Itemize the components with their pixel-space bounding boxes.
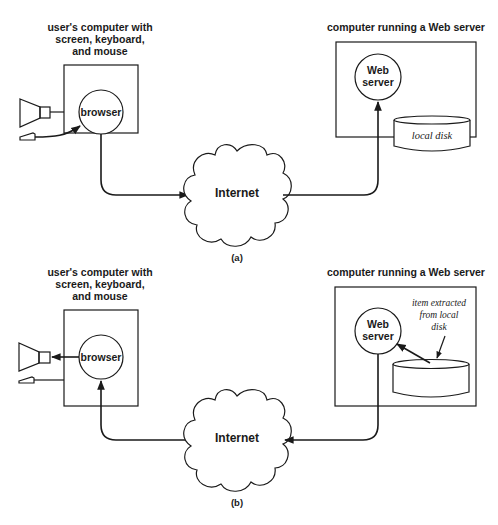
web-request-diagram: user's computer with screen, keyboard, a… bbox=[0, 0, 498, 525]
disk-annotation-line-1: item extracted bbox=[412, 298, 466, 308]
client-title-line-1: user's computer with bbox=[47, 21, 152, 33]
caption-a: (a) bbox=[231, 252, 243, 263]
internet-to-server-arrow bbox=[283, 102, 378, 195]
web-server-label-line-1: Web bbox=[367, 64, 389, 76]
web-server-label-line-2: server bbox=[362, 330, 394, 342]
client-title-line-3: and mouse bbox=[72, 290, 128, 302]
client-title-line-3: and mouse bbox=[72, 45, 128, 57]
client-title-line-1: user's computer with bbox=[47, 266, 152, 278]
internet-to-browser-arrow bbox=[101, 381, 189, 440]
mouse-icon bbox=[19, 377, 34, 383]
server-title: computer running a Web server bbox=[327, 21, 485, 33]
panel-a: user's computer with screen, keyboard, a… bbox=[20, 21, 485, 263]
local-disk-cylinder bbox=[393, 360, 469, 398]
web-server-label-line-2: server bbox=[362, 76, 394, 88]
web-server-label-line-1: Web bbox=[367, 318, 389, 330]
client-title-line-2: screen, keyboard, bbox=[55, 33, 144, 45]
annotation-pointer-arrow bbox=[437, 336, 445, 358]
browser-label: browser bbox=[81, 106, 122, 118]
caption-b: (b) bbox=[231, 497, 243, 508]
server-to-internet-arrow bbox=[285, 338, 378, 440]
monitor-icon bbox=[20, 99, 50, 127]
internet-label: Internet bbox=[215, 186, 259, 200]
client-title-line-2: screen, keyboard, bbox=[55, 278, 144, 290]
server-title: computer running a Web server bbox=[327, 266, 485, 278]
browser-label: browser bbox=[81, 351, 122, 363]
disk-annotation-line-2: from local bbox=[420, 310, 459, 320]
local-disk-label: local disk bbox=[412, 130, 453, 141]
mouse-to-browser-arrow bbox=[35, 126, 80, 137]
disk-annotation-line-3: disk bbox=[431, 322, 447, 332]
internet-label: Internet bbox=[215, 431, 259, 445]
browser-to-internet-arrow bbox=[101, 134, 188, 195]
mouse-icon bbox=[20, 133, 35, 140]
monitor-icon bbox=[19, 343, 50, 371]
panel-b: user's computer with screen, keyboard, a… bbox=[19, 266, 485, 508]
